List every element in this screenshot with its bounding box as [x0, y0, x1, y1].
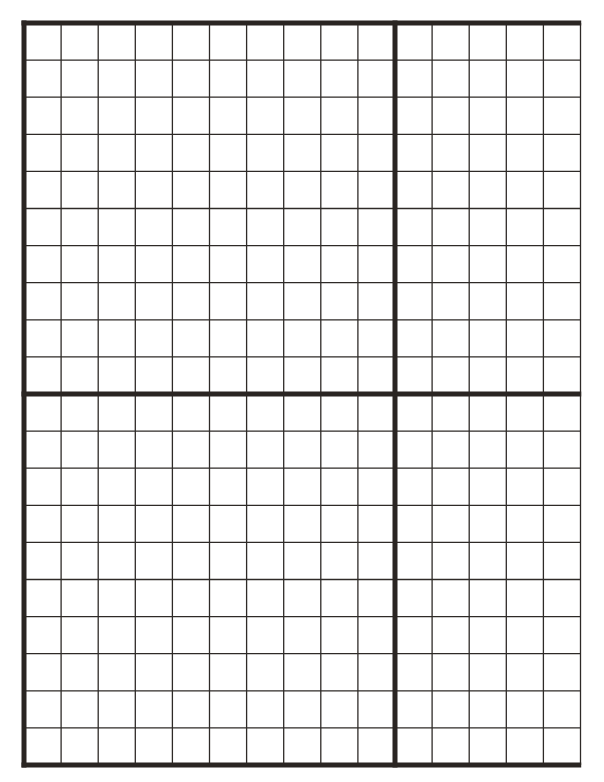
graph-paper-grid [0, 0, 604, 782]
